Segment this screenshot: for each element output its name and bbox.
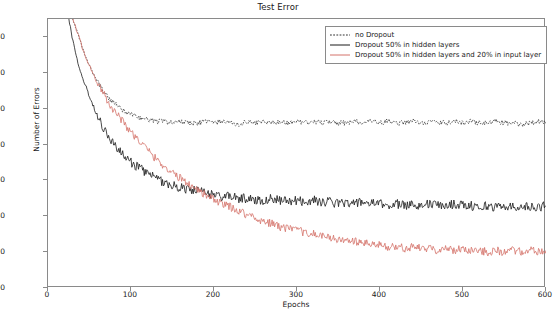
legend-label: Dropout 50% in hidden layers and 20% in … [355, 51, 541, 59]
legend-line-icon [330, 31, 350, 39]
chart-title: Test Error [0, 2, 556, 12]
x-axis-label: Epochs [47, 300, 545, 309]
legend-label: Dropout 50% in hidden layers [355, 41, 459, 49]
y-tick-label: 220 [0, 67, 5, 76]
x-tick-label: 300 [276, 290, 316, 299]
legend-item[interactable]: Dropout 50% in hidden layers and 20% in … [330, 50, 541, 60]
y-tick-label: 140 [0, 211, 5, 220]
x-tick-label: 400 [359, 290, 399, 299]
chart-legend: no DropoutDropout 50% in hidden layersDr… [325, 26, 547, 64]
x-tick-label: 100 [110, 290, 150, 299]
y-axis-label: Number of Errors [32, 60, 41, 180]
x-tick-label: 500 [442, 290, 482, 299]
y-tick-label: 120 [0, 247, 5, 256]
legend-item[interactable]: Dropout 50% in hidden layers [330, 40, 541, 50]
x-tick-label: 0 [27, 290, 67, 299]
y-tick-label: 240 [0, 31, 5, 40]
y-tick-label: 180 [0, 139, 5, 148]
y-tick-label: 100 [0, 283, 5, 292]
legend-item[interactable]: no Dropout [330, 30, 541, 40]
x-tick-label: 200 [193, 290, 233, 299]
legend-line-icon [330, 51, 350, 59]
legend-line-icon [330, 41, 350, 49]
chart-figure: Test Error Number of Errors Epochs 10012… [0, 0, 556, 325]
y-tick-label: 160 [0, 175, 5, 184]
legend-label: no Dropout [355, 31, 394, 39]
y-tick-label: 200 [0, 103, 5, 112]
x-tick-label: 600 [525, 290, 556, 299]
